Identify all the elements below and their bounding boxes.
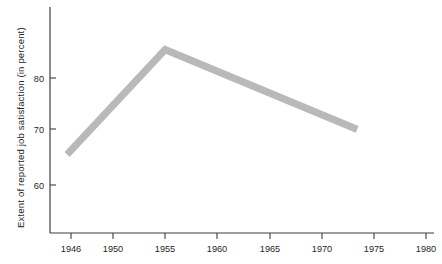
chart-container: Extent of reported job satisfaction (in …: [0, 0, 442, 264]
y-tick-label-70: 70: [34, 125, 44, 135]
x-tick-label-1965: 1965: [260, 244, 280, 254]
y-tick-label-60: 60: [34, 181, 44, 191]
x-tick-label-1950: 1950: [103, 244, 123, 254]
x-tick-label-1955: 1955: [155, 244, 175, 254]
x-tick-label-1970: 1970: [312, 244, 332, 254]
data-series-job-satisfaction: [67, 50, 357, 155]
x-tick-label-1980: 1980: [416, 244, 436, 254]
x-tick-label-1975: 1975: [364, 244, 384, 254]
x-tick-label-1960: 1960: [207, 244, 227, 254]
line-chart: Extent of reported job satisfaction (in …: [0, 0, 442, 264]
x-tick-label-1946: 1946: [61, 244, 81, 254]
y-axis-label: Extent of reported job satisfaction (in …: [15, 27, 26, 228]
x-axis-ticks: 1946 1950 1955 1960 1965 1970 1975 1980: [61, 233, 436, 254]
y-tick-label-80: 80: [34, 74, 44, 84]
y-axis-ticks: 80 70 60: [34, 74, 56, 191]
